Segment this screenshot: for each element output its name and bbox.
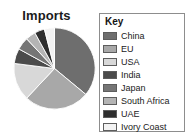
chart-panel: Imports bbox=[0, 0, 97, 137]
legend-list: ChinaEUUSAIndiaJapanSouth AfricaUAEIvory… bbox=[103, 29, 182, 133]
legend-item-label: India bbox=[121, 70, 141, 80]
legend-swatch bbox=[103, 84, 117, 92]
legend-item: EU bbox=[103, 42, 182, 55]
legend-item-label: USA bbox=[121, 57, 140, 67]
legend-item: USA bbox=[103, 55, 182, 68]
legend-swatch bbox=[103, 58, 117, 66]
legend-swatch bbox=[103, 97, 117, 105]
pie-chart-figure: Imports Key ChinaEUUSAIndiaJapanSouth Af… bbox=[0, 0, 189, 137]
legend-item: India bbox=[103, 68, 182, 81]
legend-item-label: China bbox=[121, 31, 145, 41]
legend-swatch bbox=[103, 45, 117, 53]
pie-chart bbox=[13, 27, 96, 110]
legend-item-label: EU bbox=[121, 44, 134, 54]
legend-item-label: Japan bbox=[121, 83, 146, 93]
legend-item: Japan bbox=[103, 81, 182, 94]
legend-item: China bbox=[103, 29, 182, 42]
legend-item: UAE bbox=[103, 107, 182, 120]
legend-item: Ivory Coast bbox=[103, 120, 182, 133]
legend-item-label: UAE bbox=[121, 109, 140, 119]
legend-swatch bbox=[103, 123, 117, 131]
legend-item: South Africa bbox=[103, 94, 182, 107]
legend-item-label: Ivory Coast bbox=[121, 122, 167, 132]
legend-swatch bbox=[103, 32, 117, 40]
legend-title: Key bbox=[105, 16, 123, 27]
chart-title: Imports bbox=[0, 8, 93, 23]
legend: Key ChinaEUUSAIndiaJapanSouth AfricaUAEI… bbox=[99, 13, 185, 132]
legend-item-label: South Africa bbox=[121, 96, 170, 106]
legend-swatch bbox=[103, 110, 117, 118]
pie-svg bbox=[13, 27, 96, 110]
legend-swatch bbox=[103, 71, 117, 79]
